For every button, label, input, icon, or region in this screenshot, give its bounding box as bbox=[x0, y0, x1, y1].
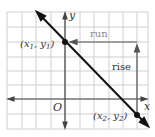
point-2 bbox=[134, 112, 140, 118]
run-label: run bbox=[90, 28, 108, 39]
rise-arrow bbox=[135, 45, 140, 115]
origin-label: O bbox=[53, 101, 62, 114]
point-2-label: (x2, y2) bbox=[93, 110, 128, 123]
x-axis-label: x bbox=[144, 100, 151, 113]
y-axis-down-arrow-icon bbox=[63, 122, 67, 128]
point-1-label: (x1, y1) bbox=[20, 38, 55, 51]
y-axis-up-arrow-icon bbox=[63, 13, 67, 19]
x-axis bbox=[8, 97, 147, 101]
point-1 bbox=[62, 39, 68, 45]
slope-diagram: y x O run rise (x1, y1) (x2, y2) bbox=[0, 0, 155, 137]
rise-arrowhead-icon bbox=[135, 45, 140, 52]
rise-label: rise bbox=[112, 61, 131, 72]
y-axis-label: y bbox=[68, 9, 76, 22]
run-arrowhead-icon bbox=[70, 40, 77, 45]
x-axis-left-arrow-icon bbox=[8, 97, 14, 101]
